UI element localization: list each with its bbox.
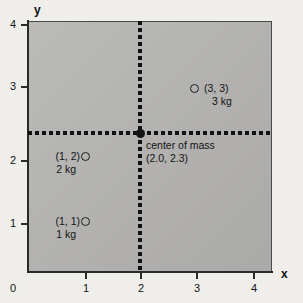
annotation-coord: (2.0, 2.3) bbox=[146, 152, 244, 165]
center-of-mass-figure: y x 4 3 2 1 0 1 2 3 4 (1, 2) 2 kg (1, 1)… bbox=[0, 0, 303, 303]
point-marker-1-2 bbox=[81, 152, 90, 161]
x-axis-line bbox=[27, 271, 273, 273]
y-tick-4 bbox=[21, 24, 28, 26]
point-marker-3-3 bbox=[190, 84, 199, 93]
x-tick-1 bbox=[85, 272, 87, 279]
center-of-mass-marker bbox=[136, 129, 145, 138]
annotation-coord: (3, 3) bbox=[204, 82, 229, 94]
x-tick-label-4: 4 bbox=[246, 283, 262, 294]
x-tick-4 bbox=[253, 272, 255, 279]
y-axis-label: y bbox=[34, 4, 41, 16]
annotation-point-3-3: (3, 3) 3 kg bbox=[204, 82, 264, 107]
x-tick-label-2: 2 bbox=[133, 283, 149, 294]
x-tick-label-1: 1 bbox=[78, 283, 94, 294]
point-marker-1-1 bbox=[81, 217, 90, 226]
y-tick-label-0: 0 bbox=[2, 283, 16, 294]
annotation-caption: center of mass bbox=[146, 139, 215, 151]
annotation-mass: 1 kg bbox=[28, 228, 80, 241]
x-tick-3 bbox=[196, 272, 198, 279]
annotation-coord: (1, 1) bbox=[55, 215, 80, 227]
y-tick-1 bbox=[21, 223, 28, 225]
y-tick-3 bbox=[21, 86, 28, 88]
annotation-coord: (1, 2) bbox=[55, 150, 80, 162]
annotation-center-of-mass: center of mass (2.0, 2.3) bbox=[146, 139, 244, 164]
x-axis-label: x bbox=[281, 268, 288, 280]
center-of-mass-horizontal-guide bbox=[28, 131, 272, 135]
y-tick-label-1: 1 bbox=[2, 218, 16, 229]
x-tick-2 bbox=[140, 272, 142, 279]
y-tick-label-2: 2 bbox=[2, 155, 16, 166]
annotation-point-1-1: (1, 1) 1 kg bbox=[28, 215, 80, 240]
annotation-mass: 2 kg bbox=[28, 163, 80, 176]
y-tick-label-3: 3 bbox=[2, 81, 16, 92]
x-tick-label-3: 3 bbox=[189, 283, 205, 294]
y-tick-label-4: 4 bbox=[2, 19, 16, 30]
center-of-mass-vertical-guide bbox=[138, 21, 142, 272]
y-tick-2 bbox=[21, 160, 28, 162]
annotation-mass: 3 kg bbox=[204, 95, 264, 108]
annotation-point-1-2: (1, 2) 2 kg bbox=[28, 150, 80, 175]
